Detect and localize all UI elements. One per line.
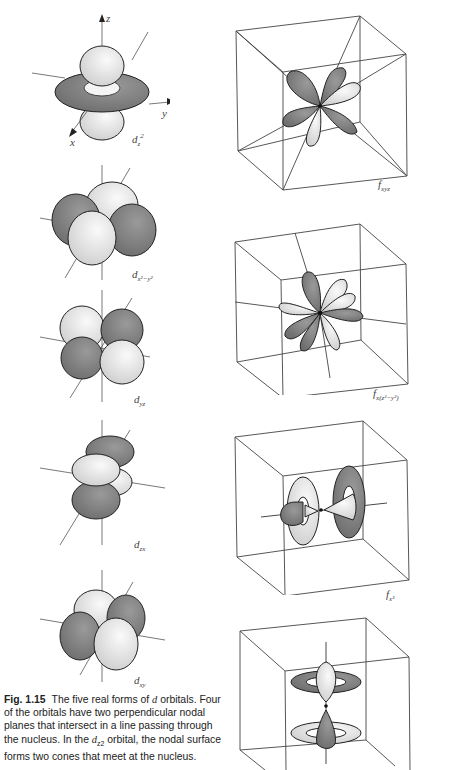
orbital-label-fxyz: fxyz bbox=[378, 178, 390, 193]
axis-label-x: x bbox=[70, 136, 75, 148]
orbital-fxyz: fxyz bbox=[225, 0, 474, 195]
orbital-dz2: z y x dz2 bbox=[20, 10, 170, 145]
dzx-diagram bbox=[20, 420, 170, 555]
orbital-fx-z2-y2: fx(z²−y²) bbox=[225, 200, 474, 395]
fx3-diagram bbox=[225, 410, 474, 595]
axis-label-y: y bbox=[162, 107, 167, 119]
orbital-label-dz2: dz2 bbox=[132, 132, 144, 148]
fz3-diagram bbox=[225, 600, 474, 770]
orbital-label-dyz: dyz bbox=[134, 393, 145, 408]
dz2-diagram bbox=[20, 10, 170, 145]
orbital-dx2-y2: dx²−y² bbox=[20, 160, 170, 285]
figure-caption: Fig. 1.15The five real forms of d orbita… bbox=[4, 693, 229, 763]
orbital-label-dx2-y2: dx²−y² bbox=[132, 268, 153, 283]
orbital-label-dzx: dzx bbox=[134, 538, 145, 553]
orbital-dxy: dxy bbox=[20, 570, 180, 690]
orbital-label-fx-z2-y2: fx(z²−y²) bbox=[373, 387, 399, 402]
orbital-fx3: fx³ bbox=[225, 410, 474, 595]
orbital-fz3 bbox=[225, 600, 474, 770]
fx-z2-y2-diagram bbox=[225, 200, 474, 395]
dxy-diagram bbox=[20, 570, 180, 690]
dx2-y2-diagram bbox=[20, 160, 170, 285]
figure-number: Fig. 1.15 bbox=[4, 694, 46, 705]
axis-label-z: z bbox=[106, 12, 110, 24]
fxyz-diagram bbox=[225, 0, 474, 195]
orbital-label-dxy: dxy bbox=[134, 674, 146, 689]
dyz-diagram bbox=[20, 290, 170, 415]
orbital-dzx: dzx bbox=[20, 420, 170, 555]
orbital-dyz: dyz bbox=[20, 290, 170, 415]
